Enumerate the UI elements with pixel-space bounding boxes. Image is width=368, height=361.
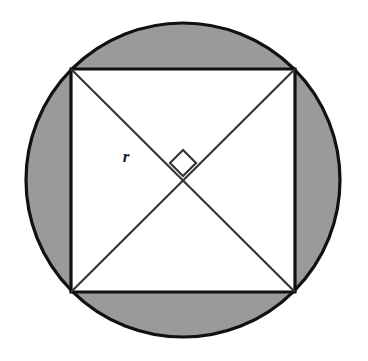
radius-label: r [123, 147, 130, 166]
geometry-diagram: r [0, 0, 368, 361]
geometry-figure: r [0, 0, 368, 361]
